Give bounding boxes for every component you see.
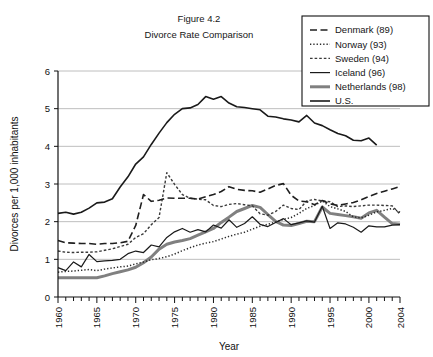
x-tick-label-2000: 2000 <box>363 307 374 328</box>
x-tick-label-1980: 1980 <box>208 307 219 328</box>
y-tick-label-6: 6 <box>45 66 50 77</box>
y-tick-label-1: 1 <box>45 254 50 265</box>
divorce-rate-line-chart: Figure 4.2 Divorce Rate Comparison 01234… <box>0 0 433 357</box>
legend-label-norway-93[interactable]: Norway (93) <box>335 39 387 50</box>
figure-container: Figure 4.2 Divorce Rate Comparison 01234… <box>0 0 433 357</box>
y-tick-label-0: 0 <box>45 292 50 303</box>
x-tick-label-1990: 1990 <box>286 307 297 328</box>
x-tick-label-1965: 1965 <box>91 307 102 328</box>
x-tick-label-1985: 1985 <box>247 307 258 328</box>
legend-label-netherlands-98[interactable]: Netherlands (98) <box>335 81 406 92</box>
x-tick-label-1995: 1995 <box>325 307 336 328</box>
figure-label: Figure 4.2 <box>178 13 221 24</box>
legend-label-sweden-94[interactable]: Sweden (94) <box>335 53 389 64</box>
x-tick-label-1975: 1975 <box>169 307 180 328</box>
chart-legend[interactable]: Denmark (89)Norway (93)Sweden (94)Icelan… <box>302 16 429 106</box>
x-axis-label: Year <box>219 341 240 352</box>
legend-label-iceland-96[interactable]: Iceland (96) <box>335 67 385 78</box>
y-tick-label-5: 5 <box>45 103 50 114</box>
y-tick-label-4: 4 <box>45 141 50 152</box>
figure-subtitle: Divorce Rate Comparison <box>145 29 254 40</box>
y-tick-label-2: 2 <box>45 216 50 227</box>
x-tick-label-2004: 2004 <box>395 307 406 328</box>
y-axis-label: Divorces per 1,000 inhabitants <box>9 116 20 251</box>
x-tick-label-1960: 1960 <box>53 307 64 328</box>
x-tick-label-1970: 1970 <box>130 307 141 328</box>
y-tick-label-3: 3 <box>45 179 50 190</box>
legend-label-denmark-89[interactable]: Denmark (89) <box>335 24 393 35</box>
legend-label-u-s[interactable]: U.S. <box>335 95 353 106</box>
